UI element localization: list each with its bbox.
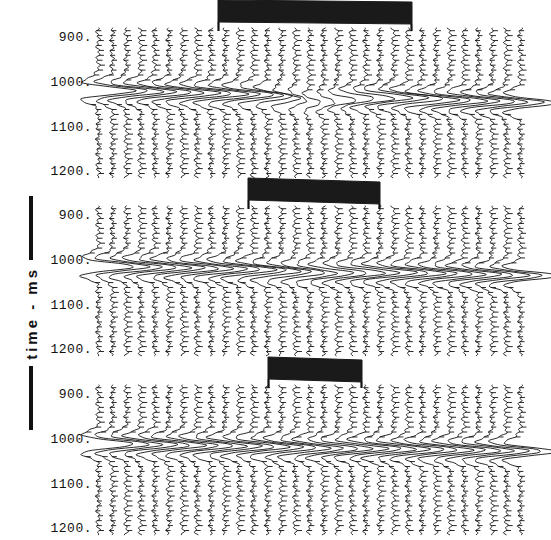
coverage-bar-2: [242, 176, 386, 210]
seismic-trace-figure: time - ms 900.1000.1100.1200.900.1000.11…: [0, 0, 551, 540]
coverage-bar-graphic-3: [262, 355, 368, 389]
plot-area-2: [78, 206, 540, 356]
coverage-bar-3: [262, 355, 368, 389]
top-panel: 900.1000.1100.1200.: [0, 28, 551, 178]
middle-panel: 900.1000.1100.1200.: [0, 206, 551, 356]
plot-area-3: [78, 385, 540, 535]
trace-canvas-3: [78, 385, 540, 535]
trace-canvas-1: [78, 28, 540, 178]
plot-area-1: [78, 28, 540, 178]
bottom-panel: 900.1000.1100.1200.: [0, 385, 551, 535]
coverage-bar-graphic-2: [242, 176, 386, 210]
trace-canvas-2: [78, 206, 540, 356]
